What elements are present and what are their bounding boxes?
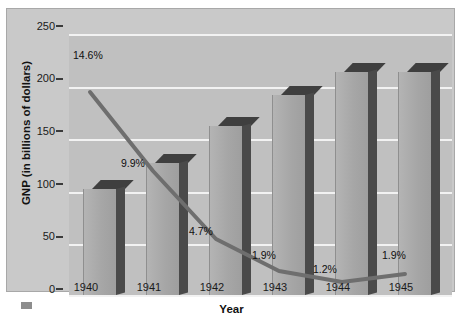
y-axis-tick-50 <box>56 236 63 238</box>
pct-label-1941: 9.9% <box>121 157 145 169</box>
y-tick-label-100: 100 <box>21 178 55 190</box>
y-tick-label-0: 0 <box>21 283 55 295</box>
x-tick-label-1940: 1940 <box>56 281 116 293</box>
y-axis-tick-100 <box>56 183 63 185</box>
x-tick-label-1942: 1942 <box>182 281 242 293</box>
pct-label-1940: 14.6% <box>73 49 103 61</box>
x-tick-label-1945: 1945 <box>371 281 431 293</box>
chart-frame: GNP (in billions of dollars) 250 200 150… <box>6 8 455 292</box>
y-tick-label-50: 50 <box>21 230 55 242</box>
x-tick-label-1941: 1941 <box>119 281 179 293</box>
y-tick-label-150: 150 <box>21 125 55 137</box>
pct-label-1945: 1.9% <box>382 249 406 261</box>
x-tick-label-1943: 1943 <box>245 281 305 293</box>
pct-label-1942: 4.7% <box>189 225 213 237</box>
x-tick-label-1944: 1944 <box>308 281 368 293</box>
page-corner-mark <box>21 302 32 309</box>
pct-label-1943: 1.9% <box>252 249 276 261</box>
trend-polyline <box>90 92 405 282</box>
pct-label-1944: 1.2% <box>313 263 337 275</box>
y-axis-tick-200 <box>56 78 63 80</box>
y-tick-label-200: 200 <box>21 72 55 84</box>
y-axis-tick-150 <box>56 130 63 132</box>
screenshot-canvas: GNP (in billions of dollars) 250 200 150… <box>0 0 464 316</box>
y-tick-label-250: 250 <box>21 20 55 32</box>
y-axis-tick-250 <box>56 25 63 27</box>
x-axis-title: Year <box>7 303 456 315</box>
